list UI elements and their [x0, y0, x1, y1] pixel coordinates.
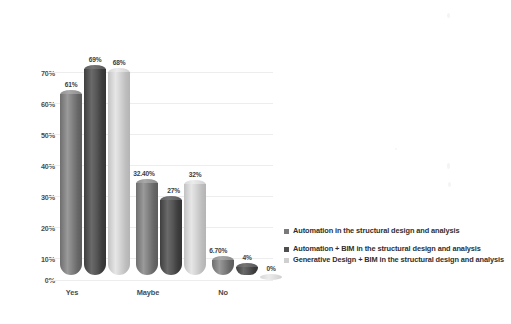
- bar-yes-generative-bim[interactable]: 68%: [108, 68, 130, 280]
- bar-value-label: 61%: [65, 81, 78, 88]
- plot-area: 61% 69% 68% 32.40% 27% 32%: [48, 18, 273, 280]
- legend-item-label: Generative Design + BIM in the structura…: [293, 255, 504, 266]
- gridline-0: [48, 280, 273, 281]
- bar-value-label: 0%: [266, 265, 275, 272]
- bar-maybe-generative-bim[interactable]: 32%: [184, 180, 206, 280]
- bar-value-label: 32.40%: [133, 170, 154, 177]
- cylinder-body: [160, 200, 182, 275]
- legend-item-automation[interactable]: Automation in the structural design and …: [284, 226, 508, 237]
- bar-value-label: 27%: [167, 187, 180, 194]
- scan-artifact: [448, 182, 451, 187]
- bar-value-label: 68%: [113, 59, 126, 66]
- chart-legend: Automation in the structural design and …: [284, 226, 508, 273]
- cylinder-body: [212, 260, 234, 275]
- legend-item-generative-bim[interactable]: Generative Design + BIM in the structura…: [284, 255, 508, 266]
- x-axis-tick-maybe: Maybe: [124, 288, 172, 297]
- chart-container: 70% 60% 50% 40% 30% 20% 10% 0% 61% 69% 6…: [0, 0, 511, 324]
- cylinder-body: [136, 183, 158, 275]
- cylinder-body: [236, 267, 258, 275]
- cylinder-body: [60, 94, 82, 275]
- legend-item-label: Automation in the structural design and …: [293, 226, 459, 237]
- bar-no-generative-bim[interactable]: 0%: [260, 274, 282, 280]
- bar-yes-automation[interactable]: 61%: [60, 90, 82, 280]
- legend-item-label: Automation + BIM in the structural desig…: [293, 244, 481, 255]
- scan-artifact: [447, 13, 450, 18]
- scan-artifact: [395, 148, 397, 150]
- x-axis-tick-no: No: [199, 288, 247, 297]
- cylinder-body: [108, 72, 130, 275]
- cylinder-body: [184, 184, 206, 275]
- cylinder-top: [260, 274, 282, 280]
- cylinder-body: [84, 69, 106, 275]
- bar-maybe-automation[interactable]: 32.40%: [136, 179, 158, 280]
- bar-value-label: 69%: [89, 56, 102, 63]
- x-axis-tick-yes: Yes: [48, 288, 96, 297]
- bar-no-automation-bim[interactable]: 4%: [236, 263, 258, 280]
- legend-swatch-icon: [284, 229, 289, 234]
- legend-swatch-icon: [284, 258, 289, 263]
- bar-value-label: 6.70%: [209, 247, 227, 254]
- legend-item-automation-bim[interactable]: Automation + BIM in the structural desig…: [284, 244, 508, 255]
- bar-value-label: 4%: [242, 254, 251, 261]
- scan-artifact: [447, 163, 450, 169]
- bar-maybe-automation-bim[interactable]: 27%: [160, 196, 182, 280]
- gridline-70: [48, 72, 273, 73]
- bar-no-automation[interactable]: 6.70%: [212, 256, 234, 280]
- bar-value-label: 32%: [189, 171, 202, 178]
- bar-yes-automation-bim[interactable]: 69%: [84, 65, 106, 280]
- legend-swatch-icon: [284, 247, 289, 252]
